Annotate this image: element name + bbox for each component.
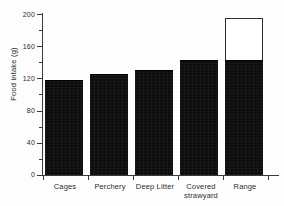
x-tick-1 bbox=[88, 176, 89, 180]
bar-range-open-segment bbox=[225, 18, 263, 60]
x-tick-0 bbox=[43, 176, 44, 180]
y-tick-label-200: 200 bbox=[5, 11, 35, 18]
x-tick-label-cages: Cages bbox=[40, 182, 90, 191]
x-tick-2 bbox=[133, 176, 134, 180]
y-tick-label-80: 80 bbox=[5, 107, 35, 114]
x-tick-4 bbox=[223, 176, 224, 180]
y-tick-label-0: 0 bbox=[5, 171, 35, 178]
plot-area bbox=[43, 14, 272, 175]
y-tick-label-160: 160 bbox=[5, 43, 35, 50]
x-tick-5 bbox=[268, 176, 269, 180]
x-tick-label-covered-strawyard-line2: strawyard bbox=[174, 191, 228, 200]
x-tick-3 bbox=[178, 176, 179, 180]
bar-range-fill bbox=[225, 60, 263, 175]
bar-deep-litter-fill bbox=[135, 70, 173, 175]
bar-chart-figure: Food intake (g) 200 160 120 80 40 0 bbox=[0, 0, 284, 206]
x-tick-label-range-line1: Range bbox=[220, 182, 270, 191]
bar-covered-strawyard-fill bbox=[180, 60, 218, 175]
x-tick-label-range: Range bbox=[220, 182, 270, 191]
bar-cages-fill bbox=[45, 80, 83, 175]
y-axis-title: Food intake (g) bbox=[10, 14, 18, 134]
x-axis-line bbox=[42, 175, 279, 176]
x-tick-label-cages-line1: Cages bbox=[40, 182, 90, 191]
bar-perchery-fill bbox=[90, 74, 128, 175]
y-tick-label-120: 120 bbox=[5, 75, 35, 82]
y-tick-label-40: 40 bbox=[5, 139, 35, 146]
